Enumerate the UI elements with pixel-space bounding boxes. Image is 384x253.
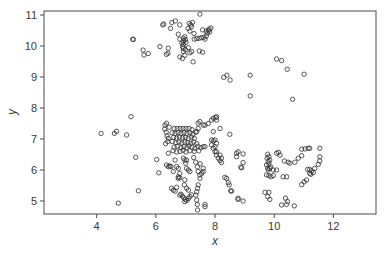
scatter-chart: 4681012 567891011 x y	[0, 0, 384, 253]
x-tick-label: 8	[212, 220, 218, 232]
x-tick-label: 12	[327, 220, 339, 232]
y-axis-label: y	[5, 108, 19, 116]
x-axis-label: x	[211, 234, 219, 248]
y-tick-label: 10	[25, 40, 37, 52]
x-tick-label: 6	[153, 220, 159, 232]
y-tick-label: 8	[31, 102, 37, 114]
y-tick-label: 7	[31, 133, 37, 145]
y-tick-label: 11	[26, 9, 37, 21]
chart-background	[0, 0, 384, 253]
y-tick-label: 6	[31, 164, 37, 176]
x-tick-label: 10	[268, 220, 280, 232]
x-tick-label: 4	[94, 220, 100, 232]
y-tick-label: 5	[31, 195, 37, 207]
y-tick-label: 9	[31, 71, 37, 83]
